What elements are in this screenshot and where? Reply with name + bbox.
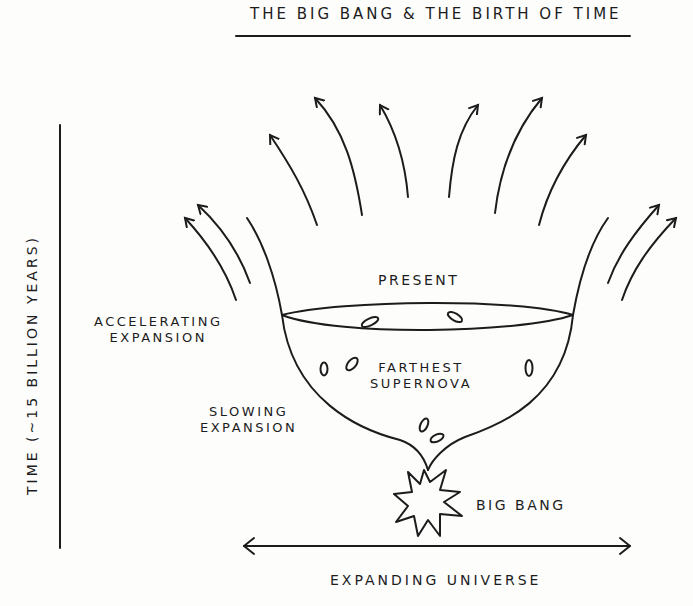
diagram-canvas: The Big Bang & the Birth of Time Time (~…	[0, 0, 693, 606]
expansion-arrows	[185, 98, 676, 300]
present-label: Present	[378, 272, 459, 290]
universe-funnel	[247, 218, 608, 470]
big-bang-label: Big Bang	[476, 497, 566, 515]
big-bang-burst-icon	[394, 470, 462, 536]
present-rim	[282, 303, 573, 330]
farthest-supernova-label: Farthest Supernova	[370, 360, 472, 393]
slowing-expansion-label: Slowing Expansion	[200, 404, 297, 437]
diagram-title: The Big Bang & the Birth of Time	[250, 5, 622, 24]
time-axis-label: Time (~15 billion years)	[24, 235, 42, 495]
expanding-universe-axis	[244, 538, 630, 554]
expanding-universe-label: Expanding Universe	[330, 572, 541, 590]
diagram-drawing	[0, 0, 693, 606]
accelerating-expansion-label: Accelerating Expansion	[94, 314, 222, 347]
